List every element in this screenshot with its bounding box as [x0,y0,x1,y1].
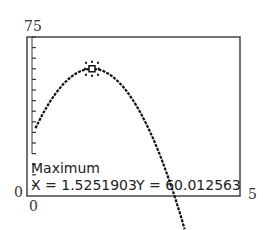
function-curve [36,69,185,229]
readout-y: Y = 60.012563 [135,177,241,193]
readout-title: Maximum [31,160,100,176]
graph-screen: Maximum X = 1.5251903 Y = 60.012563 [0,0,263,230]
readout-x: X = 1.5251903 [31,177,137,193]
